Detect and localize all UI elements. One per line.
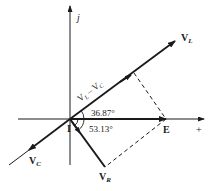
- angle-arc-lower-outer: [78, 119, 84, 130]
- angle-label-upper: 36.87°: [91, 108, 115, 118]
- imaginary-axis-label: j: [75, 12, 80, 23]
- e-label: E: [163, 124, 170, 135]
- vc-label: VC: [29, 155, 41, 168]
- angle-arc-upper: [81, 111, 84, 119]
- angle-arc-lower: [75, 119, 78, 125]
- phasor-diagram: j + VL VC VR E I VL–VC 36.87° 53.13°: [0, 0, 216, 191]
- vr-label: VR: [99, 171, 111, 184]
- vc-extension: [9, 150, 29, 165]
- vc-vector: [29, 119, 70, 150]
- real-axis-label: +: [196, 124, 202, 135]
- vl-minus-vc-label: VL–VC: [75, 78, 105, 105]
- angle-label-lower: 53.13°: [89, 124, 113, 134]
- dashed-construction-lower: [105, 119, 166, 167]
- i-label: I: [67, 123, 71, 134]
- vl-minus-vc-vector: [120, 75, 131, 82]
- dashed-construction-upper: [134, 73, 166, 119]
- vl-label: VL: [181, 32, 193, 45]
